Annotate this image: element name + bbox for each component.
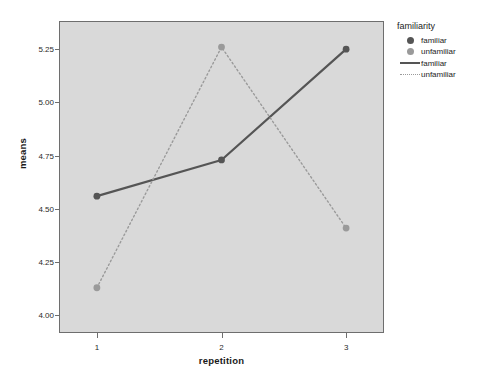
- legend-swatch: [399, 48, 421, 55]
- legend-item-unfamiliar-line-dotted[interactable]: unfamiliar: [399, 69, 456, 81]
- legend-title: familiarity: [397, 21, 435, 31]
- legend-label: unfamiliar: [421, 70, 456, 79]
- legend-label: familiar: [421, 59, 447, 68]
- legend-item-familiar-dot[interactable]: familiar: [399, 34, 447, 46]
- data-point: [343, 225, 350, 232]
- data-point: [93, 284, 100, 291]
- legend-swatch: [399, 74, 421, 75]
- y-tick-label: 4.25: [20, 258, 54, 267]
- legend-dot-icon: [407, 48, 414, 55]
- x-tick-mark: [346, 333, 347, 338]
- y-tick-label: 5.25: [20, 45, 54, 54]
- legend-dot-icon: [407, 37, 414, 44]
- legend-item-unfamiliar-dot[interactable]: unfamiliar: [399, 46, 456, 58]
- data-point: [218, 157, 225, 164]
- legend-item-familiar-line-solid[interactable]: familiar: [399, 57, 447, 69]
- y-tick-label: 4.00: [20, 311, 54, 320]
- y-axis-title: means: [17, 124, 28, 184]
- legend-dotted-line-icon: [400, 74, 420, 75]
- y-tick-label: 5.00: [20, 98, 54, 107]
- legend-swatch: [399, 62, 421, 64]
- x-tick-label: 2: [207, 343, 237, 352]
- data-point: [93, 193, 100, 200]
- y-tick-mark: [55, 315, 60, 316]
- x-axis-title: repetition: [59, 355, 384, 366]
- data-point: [218, 44, 225, 51]
- y-tick-mark: [55, 156, 60, 157]
- data-point: [343, 46, 350, 53]
- x-tick-mark: [222, 333, 223, 338]
- legend-label: unfamiliar: [421, 47, 456, 56]
- y-tick-mark: [55, 102, 60, 103]
- legend-label: familiar: [421, 36, 447, 45]
- legend-swatch: [399, 37, 421, 44]
- x-tick-label: 1: [82, 343, 112, 352]
- y-tick-mark: [55, 262, 60, 263]
- y-tick-label: 4.50: [20, 204, 54, 213]
- x-tick-mark: [97, 333, 98, 338]
- y-tick-mark: [55, 209, 60, 210]
- x-tick-label: 3: [331, 343, 361, 352]
- legend-solid-line-icon: [400, 62, 420, 64]
- chart-figure: 5.255.004.754.504.254.00 123 means repet…: [0, 0, 480, 386]
- y-tick-mark: [55, 49, 60, 50]
- plot-background: [60, 22, 384, 333]
